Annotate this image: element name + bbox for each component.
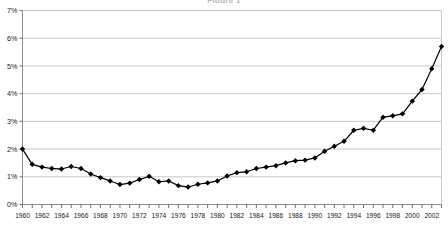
y-tick-label: 4% — [7, 89, 18, 98]
data-point-marker — [293, 158, 298, 163]
x-tick-label: 1990 — [307, 212, 322, 219]
x-tick-label: 2002 — [424, 212, 439, 219]
data-point-marker — [137, 177, 142, 182]
x-tick-label: 1968 — [93, 212, 108, 219]
data-point-marker — [146, 174, 151, 179]
data-point-marker — [244, 169, 249, 174]
data-point-marker — [332, 144, 337, 149]
y-axis-ticks: 0%1%2%3%4%5%6%7% — [7, 6, 22, 209]
gridlines — [23, 11, 442, 177]
x-tick-label: 1974 — [152, 212, 167, 219]
data-point-marker — [156, 179, 161, 184]
data-point-marker — [205, 180, 210, 185]
data-point-marker — [107, 178, 112, 183]
x-tick-label: 1998 — [385, 212, 400, 219]
x-tick-label: 1960 — [15, 212, 30, 219]
x-tick-label: 1986 — [269, 212, 284, 219]
data-point-marker — [39, 164, 44, 169]
x-tick-label: 1994 — [346, 212, 361, 219]
data-point-marker — [88, 171, 93, 176]
data-point-marker — [185, 184, 190, 189]
data-point-marker — [78, 166, 83, 171]
data-point-marker — [263, 164, 268, 169]
x-tick-label: 2000 — [405, 212, 420, 219]
x-tick-label: 1966 — [74, 212, 89, 219]
y-tick-label: 2% — [7, 145, 18, 154]
x-tick-label: 1978 — [191, 212, 206, 219]
x-axis-ticks — [23, 205, 442, 209]
data-point-marker — [224, 173, 229, 178]
data-point-marker — [117, 182, 122, 187]
x-tick-label: 1982 — [230, 212, 245, 219]
data-point-marker — [254, 166, 259, 171]
x-tick-label: 1984 — [249, 212, 264, 219]
y-tick-label: 1% — [7, 172, 18, 181]
x-tick-label: 1976 — [171, 212, 186, 219]
x-tick-label: 1972 — [132, 212, 147, 219]
x-tick-label: 1996 — [366, 212, 381, 219]
data-point-marker — [195, 182, 200, 187]
data-point-marker — [166, 178, 171, 183]
y-tick-label: 3% — [7, 117, 18, 126]
data-point-marker — [302, 157, 307, 162]
y-tick-label: 7% — [7, 6, 18, 15]
y-tick-label: 5% — [7, 62, 18, 71]
data-point-marker — [439, 44, 444, 49]
data-point-marker — [49, 166, 54, 171]
data-point-marker — [234, 170, 239, 175]
line-chart-plot: 0%1%2%3%4%5%6%7%196019621964196619681970… — [0, 0, 448, 229]
data-point-marker — [98, 175, 103, 180]
data-point-marker — [59, 166, 64, 171]
data-point-marker — [283, 160, 288, 165]
x-tick-label: 1964 — [54, 212, 69, 219]
data-point-marker — [176, 183, 181, 188]
x-tick-label: 1980 — [210, 212, 225, 219]
data-point-marker — [127, 180, 132, 185]
data-point-marker — [273, 163, 278, 168]
data-point-marker — [69, 164, 74, 169]
y-tick-label: 0% — [7, 200, 18, 209]
x-tick-label: 1962 — [35, 212, 50, 219]
x-axis-labels: 1960196219641966196819701972197419761978… — [15, 212, 439, 219]
data-series-line — [23, 47, 442, 188]
data-point-marker — [390, 113, 395, 118]
data-point-marker — [215, 178, 220, 183]
x-tick-label: 1992 — [327, 212, 342, 219]
chart-container: Figure 1 0%1%2%3%4%5%6%7%196019621964196… — [0, 0, 448, 229]
axes — [23, 11, 442, 205]
data-point-marker — [429, 66, 434, 71]
x-tick-label: 1988 — [288, 212, 303, 219]
data-point-marker — [361, 126, 366, 131]
y-tick-label: 6% — [7, 34, 18, 43]
x-tick-label: 1970 — [113, 212, 128, 219]
